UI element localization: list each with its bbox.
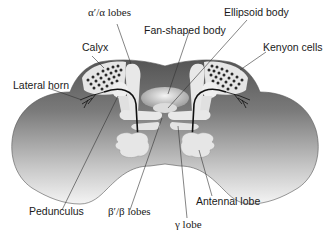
- label-gamma-lobe: γ lobe: [175, 219, 202, 230]
- label-calyx: Calyx: [82, 42, 108, 53]
- label-beta-lobes: β′/β lobes: [108, 206, 151, 217]
- ellipsoid-body: [153, 103, 177, 113]
- label-kenyon-cells: Kenyon cells: [263, 42, 323, 53]
- label-alpha-lobes: α′/α lobes: [88, 7, 131, 18]
- label-antennal-lobe: Antennal lobe: [196, 196, 260, 207]
- label-pedunculus: Pedunculus: [29, 206, 84, 217]
- label-fan-shaped-body: Fan-shaped body: [144, 25, 226, 36]
- brain-diagram: α′/α lobes Fan-shaped body Ellipsoid bod…: [0, 0, 330, 236]
- label-lateral-horn: Lateral horn: [13, 80, 69, 91]
- label-ellipsoid-body: Ellipsoid body: [224, 7, 289, 18]
